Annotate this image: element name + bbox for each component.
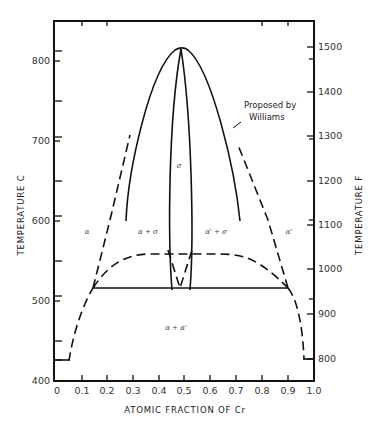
region-label-alpha-alpha-prime: α + α' [165, 324, 187, 332]
x-tick-label: 0.6 [202, 385, 217, 396]
y-right-tick-label: 900 [318, 308, 336, 319]
left-axis-ticks [54, 51, 62, 381]
gap-ends [54, 359, 314, 360]
x-tick-label: 0.9 [280, 385, 295, 396]
right-axis-labels: 800 900 1000 1100 1200 1300 1400 1500 [318, 41, 342, 364]
sigma-outer-dome [126, 48, 240, 221]
alpha-sigma-dashed [93, 135, 130, 288]
y-right-tick-label: 800 [318, 353, 336, 364]
x-tick-label: 0.1 [74, 385, 89, 396]
x-tick-label: 0.7 [228, 385, 243, 396]
y-tick-label: 400 [32, 375, 50, 386]
miscibility-gap-right [288, 288, 304, 360]
y-right-tick-label: 1500 [318, 41, 342, 52]
left-axis-labels: 400 500 600 700 800 [32, 55, 50, 386]
x-tick-label: 0.2 [99, 385, 114, 396]
williams-leader-line [233, 122, 241, 128]
y-tick-label: 800 [32, 55, 50, 66]
x-axis-labels: 0 0.1 0.2 0.3 0.4 0.5 0.6 0.7 0.8 0.9 1.… [54, 385, 322, 396]
region-label-alpha: α [85, 228, 90, 236]
region-label-alpha-prime-sigma: α' + σ [205, 228, 227, 236]
x-tick-label: 1.0 [306, 385, 321, 396]
y-right-tick-label: 1000 [318, 263, 342, 274]
y-right-tick-label: 1400 [318, 86, 342, 97]
y-axis-title-right: TEMPERATURE F [354, 175, 364, 256]
y-axis-title-left: TEMPERATURE C [16, 175, 26, 257]
x-axis-title: ATOMIC FRACTION OF Cr [124, 405, 246, 415]
y-tick-label: 500 [32, 295, 50, 306]
right-axis-ticks [307, 47, 314, 359]
y-tick-label: 700 [32, 135, 50, 146]
phase-diagram-chart: 400 500 600 700 800 800 900 1000 1100 12… [0, 0, 377, 430]
y-tick-label: 600 [32, 215, 50, 226]
y-right-tick-label: 1300 [318, 130, 342, 141]
x-tick-label: 0.3 [125, 385, 140, 396]
miscibility-gap-left [69, 288, 93, 361]
region-label-alpha-prime: α' [286, 228, 293, 236]
region-label-sigma: σ [177, 162, 182, 170]
annotation-proposed-by: Proposed by [244, 100, 296, 110]
annotation-williams: Williams [249, 112, 285, 122]
region-label-alpha-sigma: α + σ [138, 228, 158, 236]
x-tick-label: 0.8 [254, 385, 269, 396]
x-tick-label: 0 [54, 385, 60, 396]
y-right-tick-label: 1200 [318, 175, 342, 186]
y-right-tick-label: 1100 [318, 219, 342, 230]
x-tick-label: 0.5 [176, 385, 191, 396]
x-tick-label: 0.4 [151, 385, 166, 396]
